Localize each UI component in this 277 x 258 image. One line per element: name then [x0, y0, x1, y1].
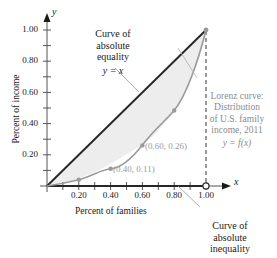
data-point-marker	[77, 178, 81, 182]
data-point-marker	[204, 28, 209, 33]
inequality-annotation-text: Curve of absolute inequality	[210, 220, 250, 255]
y-axis-title: Percent of income	[11, 74, 21, 143]
equality-annotation-text: Curve of absolute equality	[95, 28, 130, 63]
x-tick-label: 0.80	[157, 190, 191, 200]
x-tick-label: 0.20	[62, 190, 96, 200]
equality-annotation: Curve of absolute equality y = x	[75, 16, 151, 89]
point-label-060: (0.60, 0.26)	[145, 141, 187, 151]
data-point-marker	[172, 108, 176, 112]
open-point-marker	[203, 183, 209, 189]
lorenz-annotation: Lorenz curve: Distribution of U.S. famil…	[197, 80, 277, 160]
point-label-040: (0.40, 0.11)	[113, 164, 155, 174]
x-tick-label: 0.60	[125, 190, 159, 200]
data-point-marker	[140, 143, 144, 147]
y-tick-label: 1.00	[8, 24, 38, 34]
equality-annotation-equation: y = x	[75, 65, 151, 77]
x-axis-title: Percent of families	[75, 206, 147, 216]
y-axis-arrowhead	[44, 13, 51, 22]
inequality-annotation: Curve of absolute inequality	[188, 208, 272, 255]
lorenz-curve-figure: 1.00 0.80 0.60 0.40 0.20 0.20 0.40 0.60 …	[0, 0, 277, 258]
y-axis-title-wrapper: Percent of income	[5, 64, 23, 154]
y-axis-letter: y	[52, 6, 56, 17]
lorenz-annotation-text: Lorenz curve: Distribution of U.S. famil…	[210, 91, 264, 135]
x-axis-letter: x	[234, 176, 238, 187]
x-tick-label: 1.00	[189, 190, 223, 200]
x-tick-label: 0.40	[94, 190, 128, 200]
lorenz-annotation-equation: y = f(x)	[197, 138, 277, 149]
x-axis-arrowhead	[222, 183, 231, 190]
